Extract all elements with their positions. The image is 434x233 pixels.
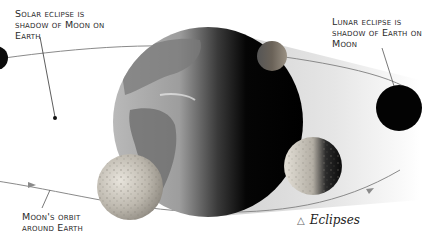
orbit-label-line-2: around Earth	[22, 222, 83, 233]
eclipse-diagram: Solar eclipse is shadow of Moon on Earth…	[0, 0, 434, 233]
moon-orbit-label: Moon's orbit around Earth	[22, 211, 83, 233]
solar-label-line-1: Solar eclipse is	[15, 8, 105, 19]
caption-title: Eclipses	[310, 213, 360, 227]
lunar-label-line-3: Moon	[332, 38, 422, 49]
moon-solar-eclipse	[0, 46, 8, 70]
solar-label-line-3: Earth	[15, 30, 105, 41]
lunar-eclipse-label: Lunar eclipse is shadow of Earth on Moon	[332, 16, 422, 49]
moon-top	[257, 41, 287, 71]
lunar-label-line-2: shadow of Earth on	[332, 27, 422, 38]
lunar-label-line-1: Lunar eclipse is	[332, 16, 422, 27]
triangle-icon: △	[297, 215, 305, 226]
solar-label-line-2: shadow of Moon on	[15, 19, 105, 30]
orbit-label-line-1: Moon's orbit	[22, 211, 83, 222]
moon-lunar-eclipse	[376, 85, 422, 131]
orbit-leader-line	[42, 190, 50, 208]
solar-eclipse-label: Solar eclipse is shadow of Moon on Earth	[15, 8, 105, 41]
caption: △Eclipses	[297, 213, 360, 227]
solar-leader-line	[40, 37, 55, 117]
